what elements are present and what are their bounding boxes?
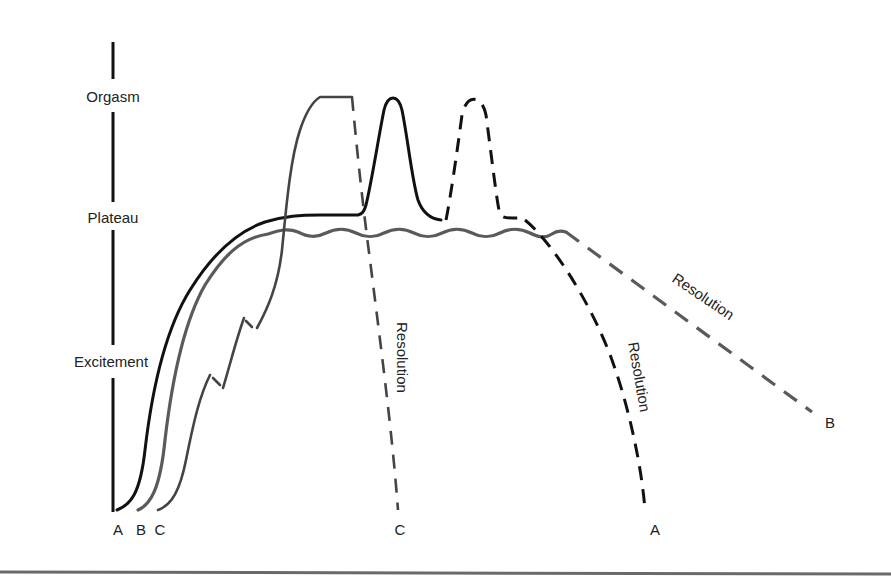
end-label-a: A bbox=[650, 521, 660, 538]
axis-label-plateau: Plateau bbox=[88, 209, 139, 226]
start-label-a: A bbox=[113, 521, 123, 538]
start-label-b: B bbox=[136, 521, 146, 538]
curve-b bbox=[138, 229, 812, 510]
bottom-divider bbox=[0, 572, 891, 574]
axis-label-orgasm: Orgasm bbox=[86, 88, 139, 105]
end-label-b: B bbox=[825, 414, 835, 431]
curve-c bbox=[158, 97, 398, 510]
end-label-c: C bbox=[395, 521, 406, 538]
resolution-label-c: Resolution bbox=[394, 322, 411, 393]
axis-label-excitement: Excitement bbox=[74, 353, 149, 370]
start-label-c: C bbox=[155, 521, 166, 538]
sexual-response-cycle-diagram: Orgasm Plateau Excitement A B C C A B Re… bbox=[0, 0, 891, 584]
resolution-label-a: Resolution bbox=[625, 341, 654, 414]
